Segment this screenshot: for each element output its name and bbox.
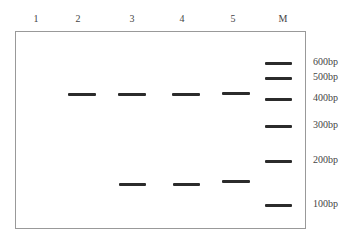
- sample-band-lane-5: [222, 92, 250, 95]
- sample-band-lane-3: [119, 183, 146, 186]
- lane-label-marker: M: [273, 13, 293, 24]
- lane-label-3: 3: [122, 13, 142, 24]
- marker-size-label: 200bp: [313, 154, 338, 165]
- sample-band-lane-4: [173, 183, 200, 186]
- marker-band-400bp: [265, 98, 292, 101]
- marker-band-300bp: [265, 125, 292, 128]
- marker-band-100bp: [265, 204, 292, 207]
- marker-band-200bp: [265, 160, 292, 163]
- sample-band-lane-5: [222, 180, 250, 183]
- marker-size-label: 100bp: [313, 198, 338, 209]
- lane-label-5: 5: [223, 13, 243, 24]
- gel-frame: [15, 31, 306, 229]
- marker-size-label: 400bp: [313, 92, 338, 103]
- marker-band-500bp: [265, 77, 292, 80]
- marker-size-label: 600bp: [313, 56, 338, 67]
- lane-label-4: 4: [172, 13, 192, 24]
- sample-band-lane-4: [172, 93, 200, 96]
- marker-band-600bp: [265, 62, 292, 65]
- lane-label-2: 2: [68, 13, 88, 24]
- marker-size-label: 300bp: [313, 119, 338, 130]
- sample-band-lane-2: [68, 93, 96, 96]
- lane-label-1: 1: [26, 13, 46, 24]
- sample-band-lane-3: [118, 93, 146, 96]
- marker-size-label: 500bp: [313, 71, 338, 82]
